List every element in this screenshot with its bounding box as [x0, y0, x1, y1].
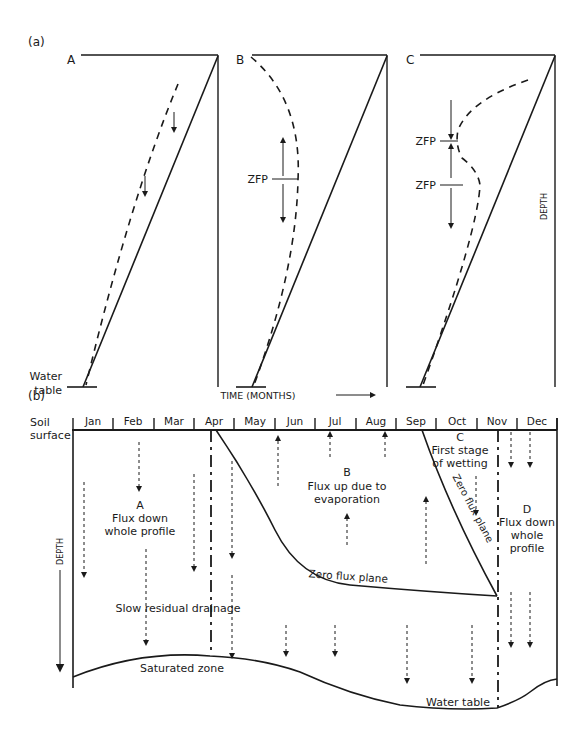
- time-axis-label: TIME (MONTHS): [220, 390, 296, 401]
- profile-b: B ZFP: [236, 53, 387, 387]
- profile-b-label: B: [236, 53, 244, 67]
- month-aug: Aug: [366, 415, 387, 427]
- profile-a-equilibrium-line: [83, 56, 218, 387]
- soil-surface-label-line1: Soil: [30, 416, 50, 429]
- zone-b-label: B Flux up due to evaporation: [307, 466, 386, 506]
- svg-text:whole profile: whole profile: [105, 525, 176, 538]
- profile-c-label: C: [406, 53, 414, 67]
- depth-label-a: DEPTH: [540, 193, 549, 220]
- zero-flux-plane-label: Zero flux plane: [308, 567, 388, 585]
- profile-a-moisture-curve: [86, 84, 178, 385]
- svg-text:profile: profile: [510, 542, 545, 555]
- panel-a: (a) A Water table B ZFP: [28, 35, 555, 397]
- zone-a-label: A Flux down whole profile: [105, 499, 176, 538]
- water-table-label: Water table: [426, 696, 490, 709]
- slow-drainage-label: Slow residual drainage: [115, 602, 240, 615]
- svg-text:First stage: First stage: [431, 444, 488, 457]
- svg-text:Flux down: Flux down: [499, 516, 555, 529]
- month-nov: Nov: [487, 415, 508, 427]
- month-apr: Apr: [205, 415, 224, 427]
- month-dec: Dec: [527, 415, 548, 427]
- zfp-upper-label: ZFP: [416, 135, 437, 148]
- zone-d-label: D Flux down whole profile: [499, 503, 555, 555]
- panel-a-label: (a): [28, 35, 45, 49]
- month-sep: Sep: [406, 415, 426, 427]
- saturated-zone-label: Saturated zone: [140, 662, 224, 675]
- profile-b-moisture-curve: [251, 57, 298, 385]
- month-axis: Jan Feb Mar Apr May Jun Jul Aug Sep Oct …: [73, 415, 557, 430]
- month-may: May: [244, 415, 266, 427]
- svg-text:of wetting: of wetting: [432, 457, 488, 470]
- svg-text:D: D: [523, 503, 531, 516]
- profile-c: C ZFP ZFP DEPTH: [406, 53, 555, 387]
- soil-water-flux-diagram: (a) A Water table B ZFP: [0, 0, 585, 739]
- zfp-label: ZFP: [248, 173, 269, 186]
- panel-b: (b) TIME (MONTHS) Soil surface Jan Feb M…: [28, 389, 557, 709]
- month-jun: Jun: [286, 415, 303, 427]
- zfp-lower-label: ZFP: [416, 179, 437, 192]
- zero-flux-plane-diagonal-label: Zero flux plane: [450, 472, 495, 544]
- profile-a: A Water table: [29, 53, 218, 397]
- panel-b-label: (b): [28, 389, 45, 403]
- depth-label-b: DEPTH: [56, 538, 65, 565]
- profile-c-equilibrium-line: [420, 56, 555, 387]
- svg-text:Flux down: Flux down: [112, 512, 168, 525]
- zone-c-label: C First stage of wetting: [431, 431, 488, 470]
- month-jul: Jul: [328, 415, 342, 427]
- month-feb: Feb: [124, 415, 143, 427]
- month-mar: Mar: [164, 415, 184, 427]
- month-jan: Jan: [84, 415, 101, 427]
- svg-text:evaporation: evaporation: [314, 493, 380, 506]
- water-table-label-line1: Water: [29, 370, 62, 383]
- svg-text:A: A: [136, 499, 144, 512]
- svg-text:Flux up due to: Flux up due to: [307, 480, 386, 493]
- soil-surface-label-line2: surface: [30, 429, 71, 442]
- svg-text:B: B: [343, 466, 351, 479]
- svg-text:C: C: [456, 431, 464, 444]
- month-oct: Oct: [448, 415, 466, 427]
- profile-b-equilibrium-line: [252, 56, 387, 387]
- svg-text:whole: whole: [511, 529, 544, 542]
- profile-a-label: A: [67, 53, 76, 67]
